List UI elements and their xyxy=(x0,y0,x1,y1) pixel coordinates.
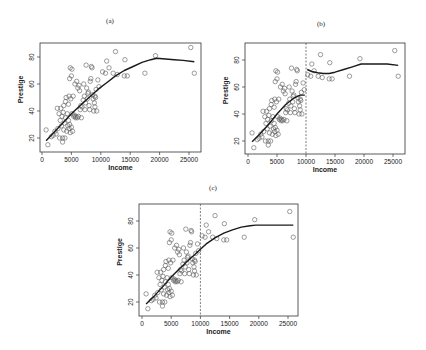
y-tick-label: 40 xyxy=(233,110,240,118)
data-point xyxy=(90,66,94,70)
data-point xyxy=(267,113,271,117)
data-point xyxy=(194,273,198,277)
data-point xyxy=(293,110,297,114)
data-point xyxy=(284,106,288,110)
data-point xyxy=(358,56,362,60)
data-point xyxy=(272,105,276,109)
x-tick-label: 0 xyxy=(246,158,250,165)
data-point xyxy=(92,101,96,105)
x-tick-label: 20000 xyxy=(151,156,169,163)
data-point xyxy=(63,99,67,103)
data-point xyxy=(263,115,267,119)
data-point xyxy=(277,97,281,101)
x-tick-label: 15000 xyxy=(121,156,139,163)
data-point xyxy=(182,271,186,275)
data-point xyxy=(160,304,164,308)
data-point xyxy=(62,103,66,107)
data-point xyxy=(94,109,98,113)
data-point xyxy=(320,75,324,79)
data-point xyxy=(171,258,175,262)
x-tick-label: 5000 xyxy=(270,158,285,165)
x-tick-label: 0 xyxy=(40,156,44,163)
data-point xyxy=(153,53,157,57)
chart-c: 050001000015000200002500020406080IncomeP… xyxy=(116,204,298,335)
y-tick-label: 60 xyxy=(28,80,35,88)
data-point xyxy=(146,307,150,311)
chart-a: 050001000015000200002500020406080IncomeP… xyxy=(17,43,201,171)
y-tick-label: 80 xyxy=(233,56,240,64)
data-point xyxy=(187,267,191,271)
data-point xyxy=(192,265,196,269)
data-point xyxy=(301,81,305,85)
data-point xyxy=(250,131,254,135)
data-point xyxy=(267,106,271,110)
x-tick-label: 25000 xyxy=(384,158,402,165)
data-point xyxy=(184,227,188,231)
x-tick-label: 5000 xyxy=(164,320,179,327)
data-point xyxy=(192,269,196,273)
x-tick-label: 0 xyxy=(140,320,144,327)
data-point xyxy=(83,107,87,111)
data-point xyxy=(77,83,81,87)
data-point xyxy=(60,140,64,144)
data-point xyxy=(46,143,50,147)
y-tick-label: 20 xyxy=(127,298,134,306)
data-point xyxy=(44,128,48,132)
x-tick-label: 10000 xyxy=(92,156,110,163)
data-point xyxy=(318,52,322,56)
data-point xyxy=(290,89,294,93)
y-tick-label: 20 xyxy=(28,134,35,142)
data-point xyxy=(189,230,193,234)
data-point xyxy=(288,110,292,114)
x-axis-label: Income xyxy=(108,164,133,171)
data-point xyxy=(93,105,97,109)
y-tick-label: 40 xyxy=(28,107,35,115)
data-point xyxy=(84,63,88,67)
data-point xyxy=(125,74,129,78)
y-tick-label: 60 xyxy=(233,83,240,91)
x-tick-label: 15000 xyxy=(326,158,344,165)
data-point xyxy=(107,66,111,70)
data-point xyxy=(84,86,88,90)
data-point xyxy=(58,118,62,122)
data-point xyxy=(195,242,199,246)
data-point xyxy=(269,102,273,106)
data-point xyxy=(89,76,93,80)
plot-frame xyxy=(245,43,405,154)
y-tick-label: 60 xyxy=(127,244,134,252)
y-axis-label: Prestige xyxy=(222,77,230,105)
data-point xyxy=(298,108,302,112)
data-point xyxy=(266,143,270,147)
data-point xyxy=(144,292,148,296)
data-point xyxy=(177,247,181,251)
x-tick-label: 10000 xyxy=(297,158,315,165)
y-axis-label: Prestige xyxy=(17,76,25,104)
data-point xyxy=(288,209,292,213)
data-point xyxy=(316,74,320,78)
data-point xyxy=(111,71,115,75)
data-point xyxy=(143,71,147,75)
data-point xyxy=(86,90,90,94)
data-point xyxy=(192,71,196,75)
data-point xyxy=(96,78,100,82)
data-point xyxy=(65,112,69,116)
x-tick-label: 25000 xyxy=(279,320,297,327)
data-point xyxy=(299,90,303,94)
data-point xyxy=(295,69,299,73)
data-point xyxy=(71,94,75,98)
data-point xyxy=(61,110,65,114)
data-point xyxy=(123,58,127,62)
data-point xyxy=(163,263,167,267)
plot-frame xyxy=(139,204,298,316)
data-point xyxy=(224,238,228,242)
plot-canvas: 050001000015000200002500020406080IncomeP… xyxy=(0,0,426,350)
data-point xyxy=(294,79,298,83)
data-point xyxy=(213,213,217,217)
data-point xyxy=(82,82,86,86)
data-point xyxy=(347,74,351,78)
y-tick-label: 80 xyxy=(127,217,134,225)
data-point xyxy=(242,235,246,239)
y-tick-label: 40 xyxy=(127,271,134,279)
data-point xyxy=(87,107,91,111)
data-point xyxy=(253,217,257,221)
